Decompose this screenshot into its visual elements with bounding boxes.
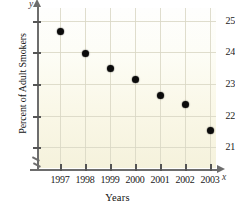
gridline-vertical [110,8,111,168]
gridline-horizontal [38,52,216,53]
x-tick-mark [85,164,87,171]
y-tick-mark [33,147,41,149]
y-tick-label: 23 [204,79,235,89]
data-point [57,28,64,35]
x-tick-mark [160,164,162,171]
data-point [157,92,164,99]
x-tick-mark [110,164,112,171]
gridline-horizontal [38,147,216,148]
data-point [107,65,114,72]
y-tick-label: 21 [204,142,235,152]
gridline-horizontal [38,21,216,22]
data-point [182,101,189,108]
x-axis-line [30,169,220,171]
x-tick-mark [60,164,62,171]
y-tick-label: 25 [204,16,235,26]
data-point [82,50,89,57]
data-point [207,127,214,134]
gridline-vertical [185,8,186,168]
x-tick-mark [135,164,137,171]
y-tick-label: 24 [204,47,235,57]
x-tick-mark [210,164,212,171]
y-tick-mark [33,84,41,86]
gridline-horizontal [38,84,216,85]
data-point [132,76,139,83]
y-axis-break-icon [32,155,44,169]
y-axis-variable-label: y [29,0,33,9]
gridline-vertical [85,8,86,168]
y-axis-line [37,4,39,170]
x-tick-mark [185,164,187,171]
y-axis-arrow-icon [33,0,41,7]
y-tick-label: 22 [204,111,235,121]
x-axis-variable-label: x [222,172,226,182]
gridline-horizontal [38,116,216,117]
y-tick-mark [33,21,41,23]
scatter-chart: 25 24 23 22 21 1997 1998 1999 2000 2001 … [0,0,235,208]
x-axis-title: Years [0,192,235,203]
plot-area [38,8,216,168]
y-tick-mark [33,116,41,118]
y-axis-title: Percent of Adult Smokers [17,14,28,154]
gridline-vertical [135,8,136,168]
y-tick-mark [33,52,41,54]
gridline-vertical [160,8,161,168]
